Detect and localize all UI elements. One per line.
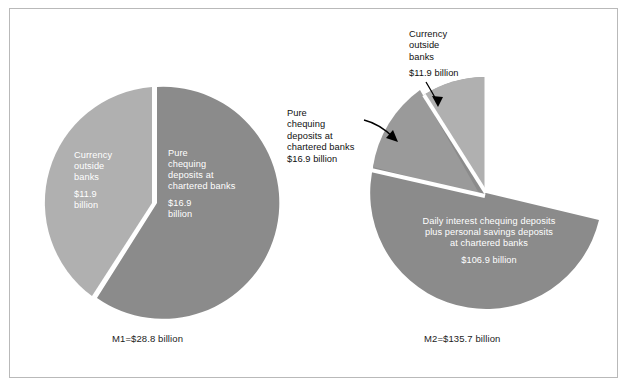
- pie-m2-savings-label-line4: $106.9 billion: [461, 255, 517, 265]
- callout-currency-m2-line1: Currency: [409, 29, 459, 40]
- pie-m2-svg: Daily interest chequing deposits plus pe…: [358, 62, 608, 330]
- pie-m1-svg: Currency outside banks $11.9 billion Pur…: [44, 80, 264, 325]
- callout-currency-m2-line2: outside: [409, 40, 459, 51]
- caption-m1: M1=$28.8 billion: [112, 333, 183, 344]
- pie-m1-currency-label-line3: banks: [74, 172, 99, 182]
- pie-m2-savings-label-line2: plus personal savings deposits: [425, 227, 553, 237]
- pie-m1-chequing-label-line3: deposits at: [168, 170, 214, 180]
- pie-m1-currency-label-line5: billion: [74, 200, 98, 210]
- callout-chequing-m2-line5: $16.9 billion: [287, 154, 354, 165]
- pie-m2-savings-label-line1: Daily interest chequing deposits: [423, 216, 556, 226]
- callout-chequing-m2-line1: Pure: [287, 108, 354, 119]
- pie-m2-savings-label-line3: at chartered banks: [450, 238, 528, 248]
- callout-currency-m2: Currency outside banks $11.9 billion: [409, 29, 459, 80]
- pie-m1-chequing-label-line5: $16.9: [168, 198, 192, 208]
- pie-chart-m1: Currency outside banks $11.9 billion Pur…: [44, 80, 264, 325]
- pie-m1-chequing-label-line2: chequing: [168, 159, 206, 169]
- caption-m2: M2=$135.7 billion: [424, 333, 500, 344]
- pie-chart-m2: Daily interest chequing deposits plus pe…: [358, 62, 608, 330]
- pie-m1-chequing-label-line4: chartered banks: [168, 181, 236, 191]
- pie-m1-currency-label-line1: Currency: [74, 150, 112, 160]
- callout-chequing-m2-line4: chartered banks: [287, 142, 354, 153]
- callout-chequing-m2-line2: chequing: [287, 119, 354, 130]
- figure-root: Currency outside banks $11.9 billion Pur…: [0, 0, 627, 387]
- pie-m1-currency-label-line2: outside: [74, 161, 104, 171]
- callout-currency-m2-line3: banks: [409, 52, 459, 63]
- callout-chequing-m2: Pure chequing deposits at chartered bank…: [287, 108, 354, 165]
- pie-m1-currency-label-line4: $11.9: [74, 189, 97, 199]
- pie-m1-chequing-label-line6: billion: [168, 209, 192, 219]
- pie-m1-chequing-label-line1: Pure: [168, 148, 188, 158]
- callout-chequing-m2-line3: deposits at: [287, 131, 354, 142]
- callout-currency-m2-line4: $11.9 billion: [409, 68, 459, 79]
